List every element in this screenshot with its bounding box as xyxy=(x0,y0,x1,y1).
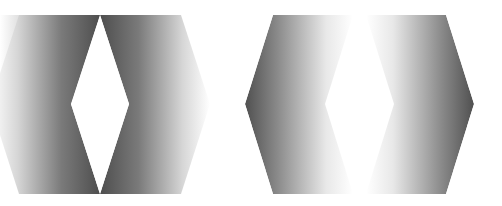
right-figure-hexagon-illusion xyxy=(240,0,502,206)
hexagon-shape xyxy=(240,0,502,206)
diamond-gradient-graphic xyxy=(0,0,240,206)
left-figure-diamond-illusion xyxy=(0,0,240,206)
hexagon-gradient-graphic xyxy=(240,0,502,206)
